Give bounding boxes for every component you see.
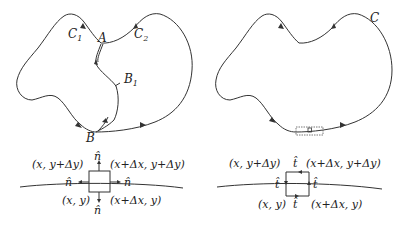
normal-right-label: n̂ [124,176,131,189]
label-b1: B1 [123,72,138,88]
left-detail-boundary [20,183,183,188]
label-c2: C2 [134,27,148,43]
label-c1: C1 [68,27,82,43]
left-region-diagram: C1 C2 A B1 B [17,14,193,145]
cut-line-b-double [98,117,108,131]
right-boundary-curve [216,14,392,132]
label-a: A [97,31,107,45]
arrow-right-bottom [140,122,146,128]
right-detail-tangents: t̂ t̂ t̂ t̂ (x, y+Δy) (x+Δx, y+Δy) (x, y… [217,156,382,211]
arrow-r-lower-right [340,122,346,128]
tangent-right-arrow-icon [307,181,311,185]
arrow-cut-down [94,59,98,65]
right-coord-top-right: (x+Δx, y+Δy) [306,157,381,170]
left-coord-top-right: (x+Δx, y+Δy) [110,158,185,171]
label-b: B [85,131,95,145]
normal-left-label: n̂ [65,176,72,189]
left-detail-normals: n̂ n̂ n̂ n̂ (x, y+Δy) (x+Δx, y+Δy) (x, y… [20,150,185,217]
right-region-diagram: C [216,11,392,135]
label-c: C [370,11,379,25]
arrow-r-lower-left [269,117,276,123]
normal-bottom-label: n̂ [94,204,101,217]
b1-tick [115,83,120,86]
left-coord-bottom-left: (x, y) [62,194,90,207]
tangent-bottom-label: t̂ [293,197,298,211]
left-coord-bottom-right: (x+Δx, y) [110,194,161,207]
normal-bottom-arrow-icon [97,199,101,203]
right-coord-bottom-right: (x+Δx, y) [311,198,362,211]
left-detail-box [89,171,110,192]
diagram-canvas: C1 C2 A B1 B n̂ n̂ n̂ n̂ (x, y+Δy) (x+Δx… [0,0,407,225]
right-detail-boundary [217,183,382,189]
normal-top-label: n̂ [94,150,101,163]
left-coord-top-left: (x, y+Δy) [32,158,83,171]
right-coord-bottom-left: (x, y) [258,198,286,211]
tangent-top-label: t̂ [293,156,298,170]
tangent-top-arrow-icon [298,170,302,174]
right-coord-top-left: (x, y+Δy) [229,157,280,170]
